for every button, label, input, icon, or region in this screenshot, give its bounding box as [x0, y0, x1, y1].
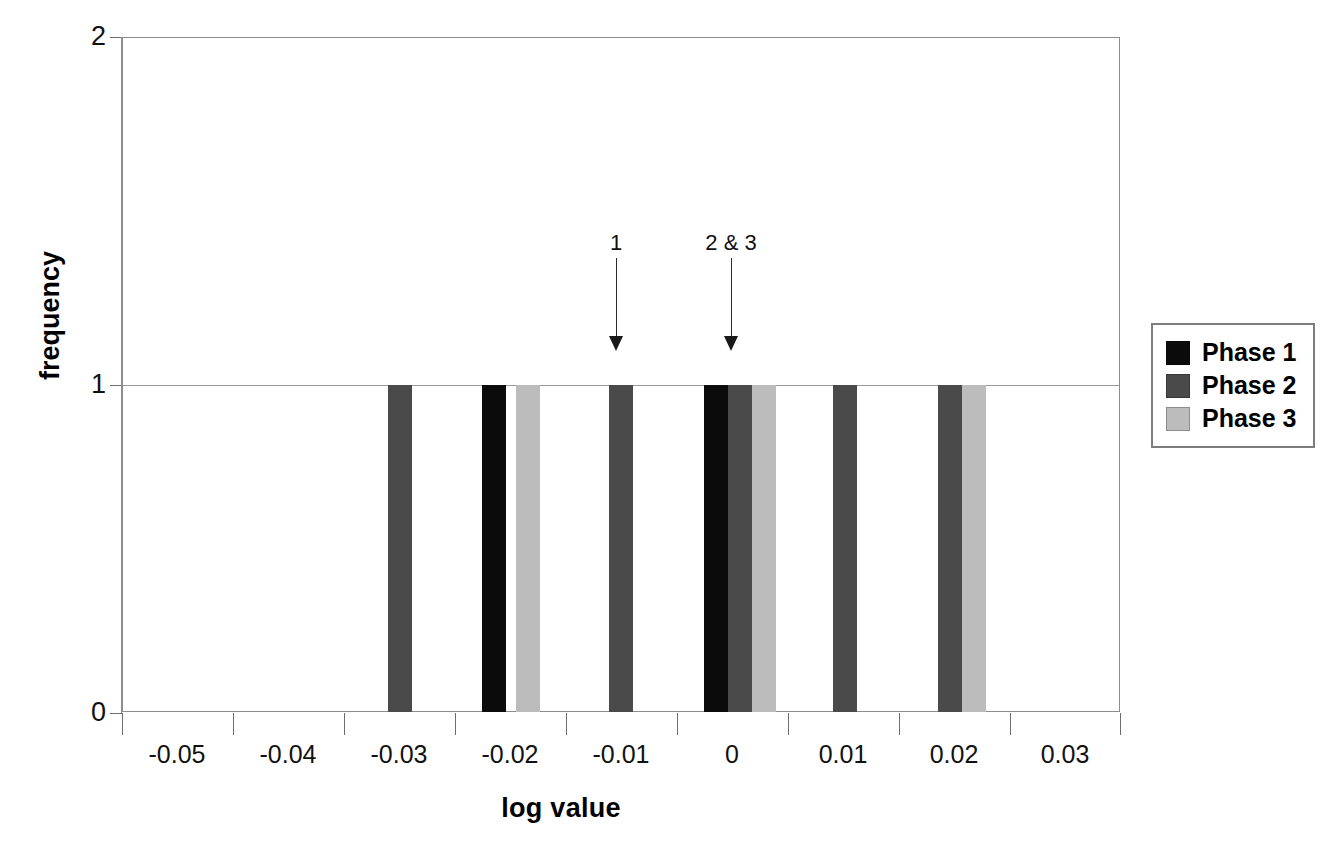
legend-swatch-phase-2-icon — [1166, 374, 1190, 398]
bar-phase3-zero — [752, 385, 776, 712]
x-axis-title: log value — [0, 793, 1122, 824]
bar-phase2-neg0.03 — [388, 385, 412, 712]
bar-phase2-zero — [728, 385, 752, 712]
x-tick-label-7: 0.02 — [894, 742, 1014, 767]
annotation-arrowhead-1 — [609, 336, 623, 351]
chart-canvas: frequency 2 1 0 1 2 & 3 -0.05 - — [0, 0, 1326, 861]
bar-phase1-neg0.02 — [482, 385, 506, 712]
x-tick-label-8: 0.03 — [1005, 742, 1125, 767]
bar-phase3-neg0.02 — [516, 385, 540, 712]
x-tick-label-1: -0.04 — [228, 742, 348, 767]
legend-item-phase-3: Phase 3 — [1166, 402, 1297, 435]
x-tick-label-3: -0.02 — [450, 742, 570, 767]
x-axis-tick-1 — [233, 713, 234, 735]
legend-item-phase-2: Phase 2 — [1166, 369, 1297, 402]
x-axis-tick-4 — [566, 713, 567, 735]
x-axis-tick-3 — [455, 713, 456, 735]
bar-phase2-neg0.01 — [609, 385, 633, 712]
legend-item-phase-1: Phase 1 — [1166, 336, 1297, 369]
legend: Phase 1 Phase 2 Phase 3 — [1151, 323, 1315, 448]
legend-swatch-phase-1-icon — [1166, 341, 1190, 365]
x-tick-label-4: -0.01 — [561, 742, 681, 767]
y-tick-label-0: 0 — [20, 699, 106, 726]
x-axis-tick-8 — [1010, 713, 1011, 735]
x-axis-tick-5 — [677, 713, 678, 735]
x-tick-label-2: -0.03 — [339, 742, 459, 767]
legend-label-phase-2: Phase 2 — [1202, 373, 1297, 398]
y-tick-label-2: 2 — [20, 23, 106, 50]
x-tick-label-0: -0.05 — [117, 742, 237, 767]
x-axis-tick-7 — [899, 713, 900, 735]
bar-phase2-pos0.02 — [938, 385, 962, 712]
x-axis-tick-0 — [122, 713, 123, 735]
annotation-shaft-1 — [616, 258, 617, 338]
x-axis-tick-6 — [788, 713, 789, 735]
legend-swatch-phase-3-icon — [1166, 407, 1190, 431]
y-axis-tick-0 — [110, 713, 122, 714]
annotation-arrowhead-2 — [724, 336, 738, 351]
bar-phase2-pos0.01 — [833, 385, 857, 712]
annotation-label-1: 1 — [556, 232, 676, 254]
bar-phase3-pos0.02 — [962, 385, 986, 712]
x-tick-label-6: 0.01 — [783, 742, 903, 767]
legend-label-phase-1: Phase 1 — [1202, 340, 1297, 365]
x-tick-label-5: 0 — [672, 742, 792, 767]
bar-phase1-zero — [704, 385, 728, 712]
y-tick-label-1: 1 — [20, 371, 106, 398]
annotation-label-2: 2 & 3 — [671, 232, 791, 254]
annotation-shaft-2 — [731, 258, 732, 338]
x-axis-tick-9 — [1120, 713, 1121, 735]
x-axis-tick-2 — [344, 713, 345, 735]
legend-label-phase-3: Phase 3 — [1202, 406, 1297, 431]
